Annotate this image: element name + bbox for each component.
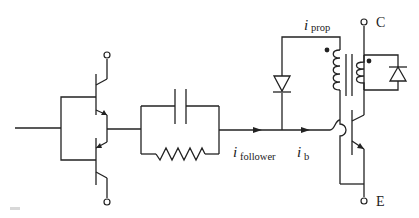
primary-polarity-dot bbox=[325, 48, 330, 53]
proportional-diode bbox=[273, 76, 291, 92]
svg-text:i: i bbox=[304, 17, 308, 33]
svg-text:b: b bbox=[304, 151, 309, 162]
upper-supply-terminal bbox=[104, 52, 110, 58]
secondary-polarity-dot bbox=[367, 59, 372, 64]
base-resistor bbox=[156, 148, 205, 160]
svg-text:prop: prop bbox=[311, 22, 330, 33]
emitter-node-wires bbox=[107, 115, 141, 142]
i-prop-label: i prop bbox=[304, 17, 330, 33]
clamp-diode bbox=[389, 67, 407, 81]
collector-wire bbox=[361, 19, 367, 115]
lower-supply-terminal bbox=[104, 199, 110, 205]
i-b-label: i b bbox=[297, 144, 309, 162]
follower-current-arrow bbox=[253, 127, 262, 133]
collector-label: C bbox=[376, 15, 385, 30]
base-current-arrow bbox=[301, 127, 310, 133]
transformer-primary-winding bbox=[325, 48, 346, 184]
svg-text:i: i bbox=[233, 144, 237, 160]
svg-text:i: i bbox=[297, 144, 301, 160]
transformer-core bbox=[346, 54, 352, 96]
collector-terminal bbox=[361, 19, 367, 25]
speed-up-capacitor bbox=[175, 89, 186, 124]
power-emitter-arrow bbox=[357, 143, 364, 149]
i-follower-label: i follower bbox=[233, 144, 276, 162]
upper-follower-transistor bbox=[96, 52, 110, 115]
power-transistor bbox=[340, 110, 367, 204]
emitter-terminal bbox=[361, 198, 367, 204]
emitter-label: E bbox=[376, 194, 385, 209]
lower-follower-transistor bbox=[96, 138, 110, 205]
circuit-diagram: C E i prop i follower i b bbox=[0, 0, 419, 218]
proportional-drive-loop bbox=[273, 37, 340, 130]
cropped-caption-fragment bbox=[10, 207, 20, 210]
rc-network bbox=[141, 89, 282, 160]
base-tie bbox=[61, 97, 96, 160]
svg-text:follower: follower bbox=[240, 151, 276, 162]
